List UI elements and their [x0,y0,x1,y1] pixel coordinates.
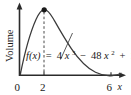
x-axis-label: x [117,81,123,92]
peak-point-marker [42,7,47,12]
y-axis [17,3,23,77]
formula-term2-exponent: 2 [111,49,115,56]
figure-container: 0 2 6 x Volume f(x) = 4 x 3 − 48 x 2 + 1… [0,0,131,95]
formula-term1-coef: 4 [57,50,63,61]
function-curve [20,10,121,76]
formula-text-run: f(x) = 4 x 3 − 48 x 2 + 144 x [26,46,131,62]
formula-term1-var: x [64,50,70,61]
x-tick-label-2: 2 [40,81,46,93]
formula-term3-coef: 144 [130,50,131,61]
formula-operator-1: − [80,50,86,61]
formula-equals: = [46,50,52,61]
x-tick-label-6: 6 [107,81,113,93]
y-axis-label: Volume [4,29,15,62]
x-tick-label-0: 0 [15,81,21,93]
formula-term2-var: x [103,50,109,61]
graph-canvas: 0 2 6 x Volume f(x) = 4 x 3 − 48 x 2 + 1… [0,0,131,95]
formula-term1-exponent: 3 [72,49,76,56]
y-axis-arrowhead [17,3,23,10]
formula-term2-coef: 48 [91,50,102,61]
formula-label: f(x) = 4 x 3 − 48 x 2 + 144 x [26,46,131,62]
formula-lhs: f(x) [26,50,41,62]
formula-operator-2: + [120,50,126,61]
